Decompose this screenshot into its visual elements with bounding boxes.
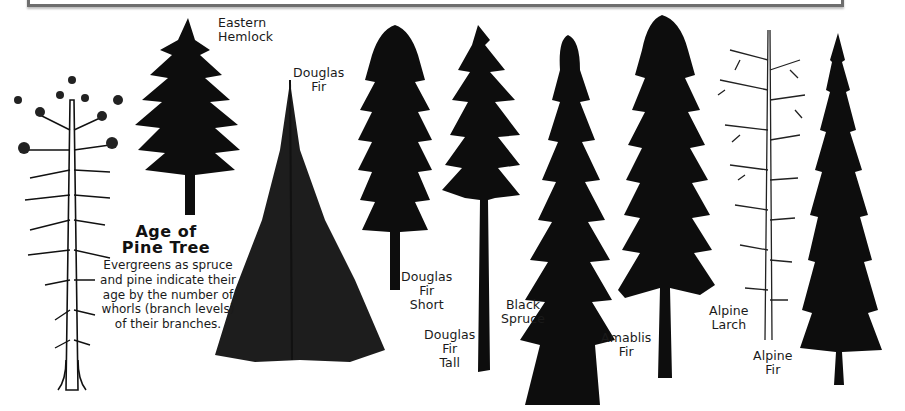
eastern-hemlock-silhouette: [135, 18, 240, 215]
label-douglas-fir: Douglas Fir: [293, 66, 344, 94]
info-box-title-line2: Pine Tree: [106, 240, 226, 256]
douglas-fir-short-silhouette: [358, 25, 432, 290]
amablis-fir-silhouette: [618, 15, 715, 378]
label-alpine-fir: Alpine Fir: [753, 349, 793, 377]
label-alpine-larch: Alpine Larch: [709, 304, 749, 332]
label-douglas-fir-tall: Douglas Fir Tall: [424, 328, 475, 370]
alpine-larch-drawing: [718, 30, 805, 340]
label-black-spruce: Black Spruce: [501, 298, 545, 326]
info-box-body: Evergreens as spruce and pine indicate t…: [94, 258, 242, 332]
label-amablis-fir: Amablis Fir: [601, 331, 651, 359]
label-douglas-fir-short: Douglas Fir Short: [401, 270, 452, 312]
label-eastern-hemlock: Eastern Hemlock: [218, 16, 273, 44]
info-box-title: Age of Pine Tree: [106, 224, 226, 256]
alpine-fir-silhouette: [800, 33, 882, 385]
